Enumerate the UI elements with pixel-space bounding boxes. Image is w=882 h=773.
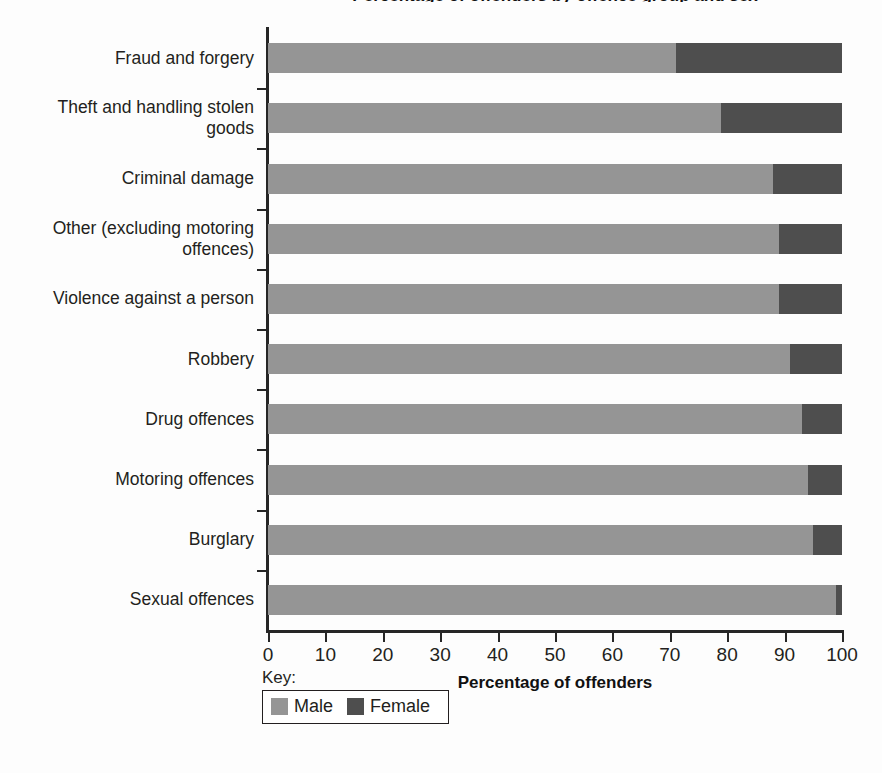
bar-row [268, 585, 842, 615]
x-axis-tick-label: 10 [301, 644, 349, 666]
bar-row [268, 43, 842, 73]
y-axis-label: Criminal damage [48, 168, 254, 189]
x-axis-tick-label: 90 [761, 644, 809, 666]
bar-segment-female [790, 344, 842, 374]
y-axis-tick [257, 88, 268, 90]
y-axis-tick [257, 269, 268, 271]
y-axis-label: Burglary [48, 529, 254, 550]
x-axis-tick-label: 60 [588, 644, 636, 666]
bar-segment-male [268, 585, 836, 615]
x-axis-tick-label: 40 [474, 644, 522, 666]
bar-segment-male [268, 525, 813, 555]
y-axis-label: Drug offences [48, 409, 254, 430]
legend-box: Male Female [262, 690, 449, 724]
bar-segment-male [268, 465, 808, 495]
x-axis-tick [727, 631, 729, 642]
bar-segment-male [268, 404, 802, 434]
bar-row [268, 284, 842, 314]
y-axis-tick [257, 329, 268, 331]
x-axis-tick [612, 631, 614, 642]
bar-segment-male [268, 103, 721, 133]
y-axis-tick [257, 209, 268, 211]
bar-segment-female [813, 525, 842, 555]
chart-page: Percentage of offenders by offence group… [0, 0, 882, 773]
bar-row [268, 465, 842, 495]
x-axis-tick-label: 100 [818, 644, 866, 666]
y-axis-tick [257, 570, 268, 572]
bar-segment-female [676, 43, 842, 73]
x-axis-tick-label: 70 [646, 644, 694, 666]
y-axis-tick [257, 449, 268, 451]
bar-segment-female [721, 103, 842, 133]
x-axis-tick [383, 631, 385, 642]
x-axis-tick [325, 631, 327, 642]
y-axis-label: Fraud and forgery [48, 48, 254, 69]
legend-title: Key: [262, 668, 449, 688]
y-axis-tick [257, 389, 268, 391]
bar-segment-male [268, 164, 773, 194]
x-axis-tick [440, 631, 442, 642]
bar-segment-female [808, 465, 842, 495]
bar-segment-male [268, 344, 790, 374]
bar-segment-female [773, 164, 842, 194]
bar-segment-male [268, 284, 779, 314]
y-axis-label: Other (excluding motoring offences) [48, 218, 254, 260]
y-axis-label: Violence against a person [48, 288, 254, 309]
bar-row [268, 525, 842, 555]
bar-row [268, 404, 842, 434]
bar-row [268, 103, 842, 133]
x-axis-tick-label: 80 [703, 644, 751, 666]
x-axis-tick-label: 50 [531, 644, 579, 666]
bar-row [268, 224, 842, 254]
x-axis-tick [785, 631, 787, 642]
legend-swatch-female [347, 698, 364, 715]
x-axis-tick [268, 631, 270, 642]
bar-segment-male [268, 43, 676, 73]
x-axis-tick [842, 631, 844, 642]
x-axis-tick-label: 20 [359, 644, 407, 666]
bar-row [268, 344, 842, 374]
legend: Key: Male Female [262, 668, 449, 724]
y-axis-label: Motoring offences [48, 469, 254, 490]
bar-segment-male [268, 224, 779, 254]
bar-row [268, 164, 842, 194]
chart-title: Percentage of offenders by offence group… [268, 0, 842, 2]
legend-entry-male: Male [271, 696, 333, 717]
y-axis-tick [257, 510, 268, 512]
legend-swatch-male [271, 698, 288, 715]
y-axis-label: Sexual offences [48, 589, 254, 610]
y-axis-label: Robbery [48, 349, 254, 370]
y-axis-tick [257, 148, 268, 150]
legend-entry-female: Female [347, 696, 430, 717]
x-axis-tick [555, 631, 557, 642]
plot-area [268, 28, 842, 630]
bar-segment-female [836, 585, 842, 615]
x-axis-tick [670, 631, 672, 642]
x-axis-tick [498, 631, 500, 642]
y-axis-label: Theft and handling stolen goods [48, 97, 254, 139]
legend-label-male: Male [294, 696, 333, 717]
bar-segment-female [779, 224, 842, 254]
x-axis-tick-label: 0 [244, 644, 292, 666]
legend-label-female: Female [370, 696, 430, 717]
x-axis-tick-label: 30 [416, 644, 464, 666]
bar-segment-female [802, 404, 842, 434]
bar-segment-female [779, 284, 842, 314]
